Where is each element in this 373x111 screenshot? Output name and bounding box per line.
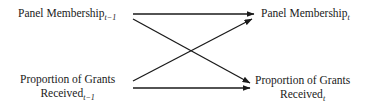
node-proportion-grants-curr: Proportion of Grants Receivedt	[255, 73, 350, 101]
node-panel-membership-prev: Panel Membershipt−1	[18, 6, 116, 20]
node-subscript: t−1	[105, 13, 117, 22]
node-subscript: t−1	[83, 93, 95, 102]
node-line1: Proportion of Grants	[20, 72, 115, 86]
node-label: Panel Membership	[261, 7, 348, 19]
node-label: Panel Membership	[18, 7, 105, 19]
node-panel-membership-curr: Panel Membershipt	[261, 6, 350, 20]
node-label: Received	[40, 87, 83, 99]
node-line1: Proportion of Grants	[255, 73, 350, 87]
node-subscript: t	[348, 13, 350, 22]
node-proportion-grants-prev: Proportion of Grants Receivedt−1	[20, 72, 115, 100]
node-label: Received	[280, 88, 323, 100]
node-subscript: t	[323, 94, 325, 103]
